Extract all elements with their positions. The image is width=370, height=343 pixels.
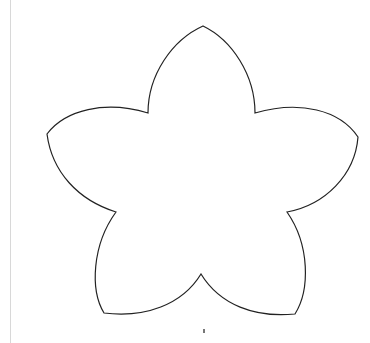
flower-path [47,26,358,315]
bottom-tick-mark [203,329,205,333]
flower-outline-shape [0,0,370,343]
